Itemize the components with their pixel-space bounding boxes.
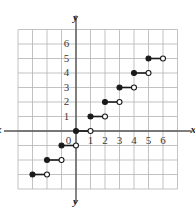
y-tick-label: 1	[61, 111, 72, 122]
open-endpoint-marker	[161, 56, 166, 61]
y-tick-label: 3	[61, 82, 72, 93]
y-axis-label-top: y	[73, 12, 78, 23]
open-endpoint-marker	[117, 100, 122, 105]
y-tick-label: 2	[61, 96, 72, 107]
x-tick-label: 1	[85, 135, 96, 146]
closed-endpoint-marker	[146, 56, 151, 61]
x-axis-label-left: x	[0, 124, 2, 135]
y-axis-label-bottom: y	[73, 196, 78, 207]
closed-endpoint-marker	[30, 172, 35, 177]
y-tick-label: 4	[61, 67, 72, 78]
y-tick-label: 5	[61, 53, 72, 64]
open-endpoint-marker	[88, 129, 93, 134]
grid-lines	[18, 30, 178, 190]
step-function-plot	[0, 0, 195, 213]
graph-figure: 1234560123456xxyy	[0, 0, 195, 213]
open-endpoint-marker	[59, 158, 64, 163]
open-endpoint-marker	[103, 114, 108, 119]
open-endpoint-marker	[74, 143, 79, 148]
x-tick-label: 0	[63, 135, 74, 146]
y-tick-label: 6	[61, 38, 72, 49]
x-tick-label: 3	[114, 135, 125, 146]
closed-endpoint-marker	[88, 114, 93, 119]
x-tick-label: 6	[158, 135, 169, 146]
closed-endpoint-marker	[45, 158, 50, 163]
closed-endpoint-marker	[103, 100, 108, 105]
closed-endpoint-marker	[117, 85, 122, 90]
x-tick-label: 4	[129, 135, 140, 146]
open-endpoint-marker	[146, 71, 151, 76]
x-axis-label-right: x	[191, 124, 196, 135]
x-tick-label: 2	[100, 135, 111, 146]
open-endpoint-marker	[45, 172, 50, 177]
closed-endpoint-marker	[74, 129, 79, 134]
open-endpoint-marker	[132, 85, 137, 90]
closed-endpoint-marker	[132, 71, 137, 76]
x-tick-label: 5	[143, 135, 154, 146]
